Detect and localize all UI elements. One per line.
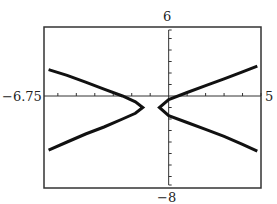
plot-frame — [44, 27, 261, 188]
x-min-label: −6.75 — [2, 90, 42, 103]
y-max-label: 6 — [163, 10, 171, 23]
right-branch-curve — [159, 66, 257, 151]
y-min-label: −8 — [157, 191, 176, 204]
curves — [49, 66, 258, 151]
x-max-label: 5 — [265, 90, 273, 103]
axes — [44, 30, 261, 185]
left-branch-curve — [49, 70, 143, 151]
